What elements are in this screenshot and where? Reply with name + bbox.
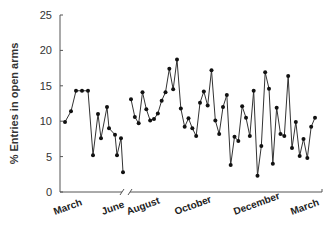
data-point (217, 132, 221, 136)
x-axis: MarchJuneAugustOctoberDecemberMarch (52, 189, 322, 217)
data-point (213, 118, 217, 122)
data-point (202, 89, 206, 93)
data-point (167, 67, 171, 71)
data-point (256, 174, 260, 178)
data-point (294, 120, 298, 124)
data-point (194, 134, 198, 138)
data-point (160, 99, 164, 103)
data-point (229, 163, 233, 167)
x-month-label: October (173, 193, 213, 216)
data-point (115, 153, 119, 157)
data-point (141, 90, 145, 94)
data-point (236, 139, 240, 143)
data-point (99, 136, 103, 140)
data-point (305, 156, 309, 160)
data-point (313, 116, 317, 120)
data-point (298, 154, 302, 158)
data-point (225, 93, 229, 97)
data-point (133, 115, 137, 119)
data-point (271, 162, 275, 166)
data-point (302, 137, 306, 141)
data-point (105, 105, 109, 109)
y-tick-label: 15 (40, 80, 52, 92)
data-point (263, 70, 267, 74)
data-point (267, 87, 271, 91)
data-point (121, 170, 125, 174)
data-point (171, 87, 175, 91)
x-month-label: August (125, 195, 162, 217)
data-point (86, 89, 90, 93)
y-tick-label: 25 (40, 9, 52, 21)
data-point (279, 132, 283, 136)
data-point (210, 68, 214, 72)
data-point (63, 120, 67, 124)
data-point (282, 134, 286, 138)
data-point (183, 125, 187, 129)
data-point (233, 135, 237, 139)
data-point (137, 121, 141, 125)
data-point (290, 146, 294, 150)
data-point (206, 104, 210, 108)
data-point (164, 90, 168, 94)
data-point (275, 106, 279, 110)
data-point (144, 107, 148, 111)
data-point (221, 105, 225, 109)
data-point (187, 116, 191, 120)
data-point (148, 118, 152, 122)
data-point (248, 134, 252, 138)
data-point (69, 109, 73, 113)
data-point (240, 104, 244, 108)
data-point (309, 125, 313, 129)
x-month-label: March (52, 196, 83, 216)
data-point (113, 133, 117, 137)
y-axis-label: % Entries in open arms (8, 43, 20, 165)
data-point (107, 126, 111, 130)
data-point (91, 153, 95, 157)
chart: 0510152025 MarchJuneAugustOctoberDecembe… (0, 0, 331, 231)
data-point (96, 112, 100, 116)
data-point (252, 89, 256, 93)
axis-labels: % Entries in open arms (8, 43, 20, 165)
data-point (198, 101, 202, 105)
data-point (152, 117, 156, 121)
data-point (179, 106, 183, 110)
y-tick-label: 5 (46, 151, 52, 163)
y-tick-label: 20 (40, 44, 52, 56)
y-tick-label: 0 (46, 186, 52, 198)
x-month-label: March (289, 196, 320, 216)
data-point (259, 144, 263, 148)
data-point (175, 58, 179, 62)
data-point (190, 126, 194, 130)
x-month-label: December (232, 190, 281, 217)
data-point (80, 89, 84, 93)
data-point (244, 116, 248, 120)
data-point (156, 111, 160, 115)
data-point (286, 74, 290, 78)
series (63, 58, 317, 178)
x-month-label: June (100, 198, 126, 216)
data-point (74, 89, 78, 93)
data-point (119, 136, 123, 140)
series-line (65, 91, 123, 172)
y-tick-label: 10 (40, 115, 52, 127)
data-point (129, 97, 133, 101)
y-axis: 0510152025 (40, 9, 63, 198)
